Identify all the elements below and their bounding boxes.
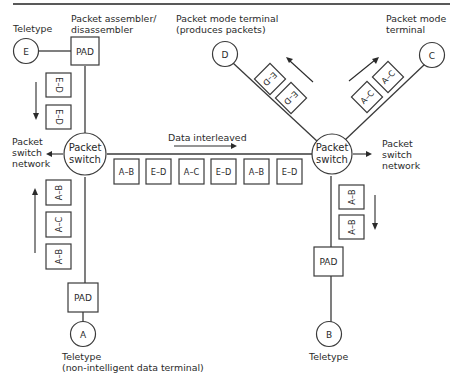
svg-text:A–C: A–C: [184, 167, 200, 177]
label-network-left-2: switch: [12, 147, 42, 158]
svg-text:A–C: A–C: [54, 217, 64, 233]
packet-a-2: A–C: [46, 212, 71, 237]
svg-text:A–B: A–B: [119, 167, 135, 177]
label-pad-line1: Packet assembler/: [71, 13, 157, 24]
label-teletype-e: Teletype: [12, 23, 52, 34]
svg-text:E–D: E–D: [54, 109, 64, 125]
terminal-b: B: [317, 322, 342, 347]
interleaved-packet-5: A–B: [244, 159, 269, 184]
b-flow-arrowhead: [372, 223, 378, 230]
c-flow-arrowhead: [372, 57, 379, 64]
svg-text:A–B: A–B: [54, 184, 64, 200]
label-terminal-d-line2: (produces packets): [176, 24, 266, 35]
label-data-interleaved: Data interleaved: [168, 132, 247, 143]
terminal-e: E: [14, 39, 39, 64]
svg-text:switch: switch: [316, 154, 348, 165]
interleaved-arrowhead: [231, 143, 237, 149]
interleaved-packet-1: A–B: [114, 159, 139, 184]
svg-text:E–D: E–D: [151, 167, 167, 177]
pad-top: PAD: [71, 37, 99, 65]
e-flow-arrowhead: [33, 113, 39, 120]
a-flow-arrowhead: [32, 188, 38, 195]
packet-e-1: E–D: [46, 73, 71, 97]
packet-e-2: E–D: [46, 105, 71, 129]
label-terminal-c-line1: Packet mode: [386, 13, 446, 24]
label-terminal-d-line1: Packet mode terminal: [176, 13, 278, 24]
svg-text:D: D: [222, 50, 229, 60]
svg-text:C: C: [429, 51, 435, 61]
terminal-d: D: [213, 42, 238, 67]
svg-text:PAD: PAD: [74, 293, 92, 303]
label-teletype-b: Teletype: [308, 351, 348, 362]
interleaved-packet-3: A–C: [179, 159, 204, 184]
packet-d-1: E–D: [254, 63, 285, 94]
svg-text:A–B: A–B: [347, 219, 357, 235]
packet-switch-left: Packet switch: [64, 133, 106, 175]
interleaved-packet-6: E–D: [277, 159, 302, 184]
pad-right-bottom: PAD: [314, 247, 343, 276]
label-teletype-a-line2: (non-intelligent data terminal): [62, 362, 204, 373]
label-network-right-3: network: [382, 160, 421, 171]
packet-b-2: A–B: [339, 215, 364, 239]
svg-text:E–D: E–D: [216, 167, 232, 177]
label-network-right-1: Packet: [382, 138, 413, 149]
label-teletype-a-line1: Teletype: [61, 351, 101, 362]
svg-text:PAD: PAD: [320, 257, 338, 267]
interleaved-packet-2: E–D: [146, 159, 171, 184]
interleaved-packet-4: E–D: [211, 159, 236, 184]
c-flow-arrow-line: [349, 60, 375, 81]
packet-a-3: A–B: [46, 244, 71, 269]
label-pad-line2: disassembler: [71, 24, 133, 35]
terminal-a: A: [71, 322, 96, 347]
packet-b-1: A–B: [339, 185, 364, 209]
svg-text:B: B: [326, 330, 332, 340]
packet-c-2: A–C: [372, 61, 403, 92]
svg-text:PAD: PAD: [76, 47, 94, 57]
left-network-arrowhead: [46, 151, 52, 157]
label-network-left-3: network: [12, 158, 51, 169]
svg-text:E–D: E–D: [282, 167, 298, 177]
svg-text:Packet: Packet: [316, 142, 349, 153]
svg-text:switch: switch: [69, 154, 101, 165]
right-network-arrowhead: [366, 151, 372, 157]
packet-switching-diagram: E D C A B PAD PAD PAD Packet switch Pack…: [0, 0, 455, 378]
terminal-c: C: [420, 43, 445, 68]
svg-text:A–B: A–B: [249, 167, 265, 177]
packet-a-1: A–B: [46, 180, 71, 205]
d-flow-arrow-line: [290, 61, 313, 82]
svg-text:Packet: Packet: [69, 142, 102, 153]
svg-text:A–B: A–B: [347, 189, 357, 205]
packet-d-2: E–D: [275, 82, 306, 113]
label-network-left-1: Packet: [12, 136, 43, 147]
svg-text:E–D: E–D: [54, 77, 64, 93]
svg-text:A–B: A–B: [54, 248, 64, 264]
svg-text:E: E: [23, 47, 29, 57]
svg-text:A: A: [80, 330, 87, 340]
packet-switch-right: Packet switch: [312, 134, 352, 174]
label-terminal-c-line2: terminal: [386, 24, 425, 35]
pad-left-bottom: PAD: [68, 283, 98, 312]
label-network-right-2: switch: [382, 149, 412, 160]
